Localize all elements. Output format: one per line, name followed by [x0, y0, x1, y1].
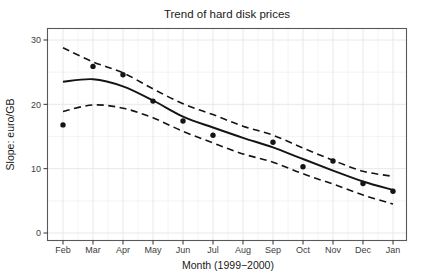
x-tick-label: Mar	[85, 245, 101, 255]
x-tick-label: Aug	[235, 245, 251, 255]
plot-panel	[48, 29, 407, 241]
data-point-dec	[360, 181, 365, 186]
x-tick-label: Nov	[325, 245, 342, 255]
hard-disk-prices-chart: FebMarAprMayJunJulAugSepOctNovDecJan 010…	[0, 0, 431, 279]
data-point-may	[150, 98, 155, 103]
x-tick-label: Oct	[296, 245, 311, 255]
data-point-jul	[210, 133, 215, 138]
x-tick-label: Jun	[176, 245, 191, 255]
x-tick-label: Feb	[55, 245, 71, 255]
x-tick-label: Jan	[386, 245, 401, 255]
data-point-oct	[300, 164, 305, 169]
data-point-nov	[330, 158, 335, 163]
x-tick-label: May	[144, 245, 162, 255]
y-tick-labels: 0102030	[31, 35, 41, 238]
y-axis-title: Slope: euro/GB	[4, 99, 16, 171]
x-tick-label: Apr	[116, 245, 130, 255]
data-point-feb	[60, 122, 65, 127]
data-point-apr	[120, 72, 125, 77]
chart-title: Trend of hard disk prices	[164, 8, 290, 20]
y-tick-label: 20	[31, 100, 41, 110]
x-tick-labels: FebMarAprMayJunJulAugSepOctNovDecJan	[55, 245, 400, 255]
x-tick-label: Dec	[355, 245, 372, 255]
data-point-jan	[390, 188, 395, 193]
x-tick-label: Jul	[207, 245, 219, 255]
x-tick-label: Sep	[265, 245, 281, 255]
data-point-mar	[90, 64, 95, 69]
y-tick-label: 30	[31, 35, 41, 45]
y-tick-label: 0	[36, 228, 41, 238]
chart-figure: FebMarAprMayJunJulAugSepOctNovDecJan 010…	[0, 0, 431, 279]
x-axis-title: Month (1999−2000)	[182, 259, 274, 271]
data-point-sep	[270, 140, 275, 145]
y-tick-label: 10	[31, 164, 41, 174]
data-point-jun	[180, 118, 185, 123]
